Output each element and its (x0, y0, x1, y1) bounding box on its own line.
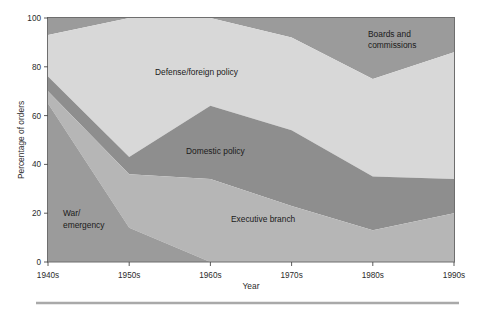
y-tick-label: 60 (32, 112, 42, 121)
x-axis-title: Year (243, 281, 260, 291)
series-label-defense: Defense/foreign policy (155, 67, 239, 77)
series-label-executive: Executive branch (231, 214, 296, 224)
y-tick-label: 0 (36, 258, 41, 267)
chart-figure: 020406080100 1940s1950s1960s1970s1980s19… (0, 0, 481, 309)
x-tick-label: 1980s (362, 271, 384, 280)
series-label-boards-line2: commissions (368, 40, 416, 50)
y-axis-title: Percentage of orders (16, 101, 26, 179)
y-tick-label: 20 (32, 209, 42, 218)
x-tick-label: 1990s (443, 271, 465, 280)
x-tick-label: 1950s (118, 271, 140, 280)
x-tick-label: 1940s (37, 271, 59, 280)
series-label-war-line2: emergency (63, 220, 105, 230)
x-tick-label: 1960s (199, 271, 221, 280)
plot-areas (48, 18, 454, 262)
series-label-domestic: Domestic policy (186, 146, 245, 156)
series-label-war-line1: War/ (63, 208, 81, 218)
y-tick-label: 80 (32, 63, 42, 72)
x-tick-label: 1970s (280, 271, 302, 280)
y-tick-label: 40 (32, 160, 42, 169)
stacked-area-chart: 020406080100 1940s1950s1960s1970s1980s19… (0, 0, 481, 309)
y-tick-label: 100 (27, 14, 41, 23)
series-label-boards-line1: Boards and (368, 29, 411, 39)
